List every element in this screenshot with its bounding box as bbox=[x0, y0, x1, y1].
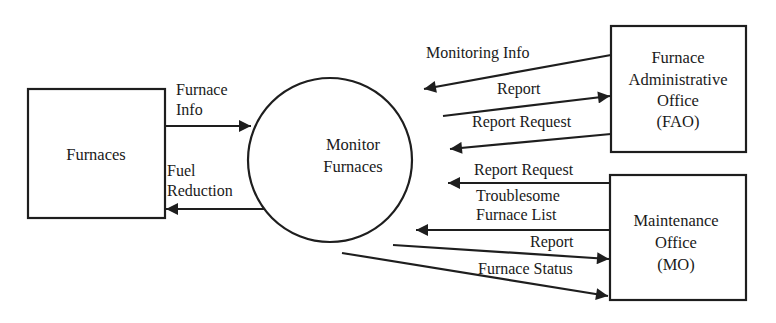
report-mo-arrow bbox=[393, 245, 609, 259]
entity-mo: Maintenance Office (MO) bbox=[610, 175, 746, 300]
report-request-mo-label: Report Request bbox=[474, 161, 574, 179]
mo-label-line-2: Office bbox=[655, 233, 697, 252]
report-request-fao-arrow bbox=[450, 134, 611, 149]
fuel-reduction-label-line-1: Fuel bbox=[167, 162, 196, 179]
flow-troublesome-furnace-list: Troublesome Furnace List bbox=[416, 187, 610, 230]
troublesome-furnace-list-label-line-1: Troublesome bbox=[476, 187, 560, 204]
process-monitor-furnaces: Monitor Furnaces bbox=[248, 78, 412, 242]
data-flow-diagram: Furnaces Monitor Furnaces Furnace Admini… bbox=[0, 0, 776, 323]
process-label-line-2: Furnaces bbox=[323, 157, 383, 176]
furnace-info-label-line-1: Furnace bbox=[176, 81, 228, 98]
flow-report-mo: Report bbox=[393, 233, 609, 259]
fao-box bbox=[611, 26, 746, 152]
entity-fao: Furnace Administrative Office (FAO) bbox=[611, 26, 746, 152]
report-fao-label: Report bbox=[497, 80, 541, 98]
report-request-fao-label: Report Request bbox=[472, 113, 572, 131]
flow-report-fao: Report bbox=[443, 80, 610, 116]
mo-label-line-3: (MO) bbox=[657, 255, 695, 274]
fao-label-line-3: Office bbox=[657, 91, 699, 110]
fao-label-line-1: Furnace bbox=[651, 48, 704, 67]
troublesome-furnace-list-label-line-2: Furnace List bbox=[476, 206, 557, 223]
fao-label-line-2: Administrative bbox=[629, 70, 728, 89]
furnaces-label: Furnaces bbox=[66, 145, 126, 164]
flow-furnace-info: Furnace Info bbox=[165, 81, 251, 126]
entity-furnaces: Furnaces bbox=[28, 89, 165, 218]
flow-furnace-status: Furnace Status bbox=[342, 253, 608, 296]
process-label-line-1: Monitor bbox=[326, 135, 381, 154]
report-mo-label: Report bbox=[530, 233, 574, 251]
mo-label-line-1: Maintenance bbox=[633, 211, 718, 230]
monitoring-info-label: Monitoring Info bbox=[426, 44, 530, 62]
furnace-info-label-line-2: Info bbox=[176, 101, 203, 118]
flow-report-request-mo: Report Request bbox=[448, 161, 610, 183]
flow-report-request-fao: Report Request bbox=[450, 113, 611, 149]
fao-label-line-4: (FAO) bbox=[657, 112, 700, 131]
fuel-reduction-label-line-2: Reduction bbox=[167, 182, 233, 199]
furnace-status-label: Furnace Status bbox=[478, 260, 573, 277]
